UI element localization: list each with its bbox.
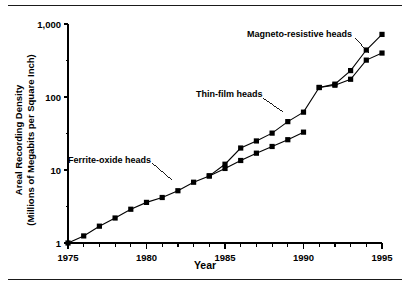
data-point-marker — [207, 173, 212, 178]
data-point-marker — [270, 144, 275, 149]
data-point-marker — [348, 68, 353, 73]
annotation-leader-line — [263, 98, 283, 112]
data-point-marker — [254, 151, 259, 156]
data-point-marker — [348, 77, 353, 82]
data-point-marker — [160, 195, 165, 200]
data-point-marker — [238, 145, 243, 150]
data-point-marker — [97, 224, 102, 229]
x-axis-title: Year — [0, 259, 410, 271]
data-point-marker — [81, 233, 86, 238]
data-point-marker — [301, 130, 306, 135]
data-point-marker — [222, 162, 227, 167]
y-axis-title-line1: Areal Recording Density — [13, 20, 25, 260]
data-point-marker — [113, 215, 118, 220]
series-annotation-label: Thin-film heads — [196, 89, 263, 99]
series-annotation-label: Ferrite-oxide heads — [68, 155, 151, 165]
data-point-marker — [364, 58, 369, 63]
chart-plot-area — [0, 0, 410, 293]
data-series-group — [65, 32, 384, 246]
data-point-marker — [285, 137, 290, 142]
axes-group — [64, 24, 382, 249]
data-point-marker — [301, 110, 306, 115]
data-point-marker — [175, 188, 180, 193]
data-point-marker — [379, 32, 384, 37]
series-line — [209, 53, 382, 176]
data-point-marker — [317, 85, 322, 90]
data-point-marker — [65, 240, 70, 245]
series-line — [68, 132, 304, 243]
annotation-leader-lines — [152, 38, 369, 180]
data-point-marker — [332, 82, 337, 87]
data-point-marker — [144, 200, 149, 205]
series-annotation-label: Magneto-resistive heads — [247, 29, 352, 39]
data-point-marker — [128, 207, 133, 212]
data-point-marker — [191, 180, 196, 185]
data-point-marker — [379, 50, 384, 55]
data-point-marker — [254, 138, 259, 143]
y-axis-title: Areal Recording Density (Millions of Meg… — [13, 20, 37, 260]
data-point-marker — [238, 158, 243, 163]
figure-container: 1101001,000 19751980198519901995 Ferrite… — [0, 0, 410, 293]
data-point-marker — [285, 119, 290, 124]
annotation-leader-line — [355, 38, 369, 53]
annotation-leader-line — [152, 163, 172, 180]
data-point-marker — [270, 131, 275, 136]
y-axis-title-line2: (Millions of Megabits per Square Inch) — [25, 20, 37, 260]
